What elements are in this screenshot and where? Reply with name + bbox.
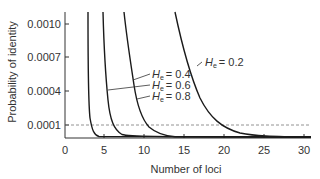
x-tick-label: 10	[138, 144, 150, 156]
chart: 0.0010 0.0007 0.0004 0.0001 0 5 10 15 20…	[0, 0, 320, 179]
x-tick-label: 15	[178, 144, 190, 156]
x-tick-label: 25	[258, 144, 270, 156]
y-ticks: 0.0010 0.0007 0.0004 0.0001	[27, 18, 69, 131]
legend-he-0.2: He= 0.2	[205, 56, 244, 69]
curve-he-0.2	[175, 12, 311, 137]
x-axis-label: Number of loci	[151, 163, 222, 175]
y-tick-label: 0.0001	[27, 119, 61, 131]
y-axis-label: Probability of identity	[6, 21, 18, 123]
y-tick-label: 0.0007	[27, 51, 61, 63]
legend-he-0.8: He= 0.8	[152, 90, 191, 103]
y-tick-label: 0.0010	[27, 18, 61, 30]
x-tick-label: 5	[101, 144, 107, 156]
curve-he-0.6	[103, 12, 311, 137]
x-tick-label: 20	[218, 144, 230, 156]
curve-he-0.8	[88, 12, 311, 137]
x-tick-label: 30	[298, 144, 310, 156]
legend: He= 0.2 He= 0.4 He= 0.6 He= 0.8	[152, 56, 244, 103]
series-lines	[88, 12, 311, 137]
y-tick-label: 0.0004	[27, 85, 61, 97]
x-tick-label: 0	[62, 144, 68, 156]
